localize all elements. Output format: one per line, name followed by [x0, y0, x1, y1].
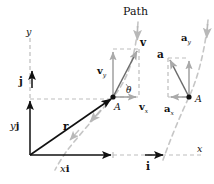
diagram-canvas: Path y x j i yj xi r A A θ v vy vx a ay …	[0, 0, 214, 184]
acceleration-x-label: ax	[164, 103, 174, 116]
theta-label: θ	[126, 85, 132, 95]
point-a-acceleration-marker	[186, 94, 191, 99]
velocity-vector-arrow	[113, 51, 137, 97]
component-xi-unit: i	[66, 163, 70, 174]
position-vector-label: r	[63, 120, 69, 132]
point-a-acceleration-label: A	[194, 93, 202, 104]
unit-vector-i-label: i	[146, 160, 150, 172]
velocity-diagram-group	[110, 49, 139, 100]
acceleration-y-subscript: y	[186, 38, 191, 46]
kinematics-figure: Path y x j i yj xi r A A θ v vy vx a ay …	[0, 0, 214, 184]
point-a-velocity-label: A	[113, 101, 121, 112]
acceleration-diagram-group	[168, 58, 192, 100]
velocity-vector-label: v	[139, 36, 147, 48]
component-yj-label: yj	[9, 120, 19, 131]
x-axis-label: x	[197, 143, 203, 154]
acceleration-vector-arrow	[170, 60, 189, 97]
velocity-y-label: vy	[96, 65, 107, 79]
acceleration-x-subscript: x	[170, 109, 174, 116]
component-yj-unit: j	[15, 120, 20, 131]
velocity-x-subscript: x	[145, 107, 149, 114]
acceleration-y-label: ay	[181, 32, 191, 46]
velocity-x-label: vx	[138, 101, 149, 114]
path-label: Path	[123, 5, 148, 18]
path-curve-right-arrow	[207, 24, 208, 38]
unit-vector-j-label: j	[18, 75, 23, 87]
velocity-y-subscript: y	[102, 71, 107, 79]
component-xi-label: xi	[60, 163, 70, 174]
acceleration-vector-label: a	[157, 48, 164, 60]
y-axis-label: y	[25, 26, 32, 37]
point-a-velocity-marker	[110, 94, 115, 99]
position-components-group	[30, 101, 113, 158]
